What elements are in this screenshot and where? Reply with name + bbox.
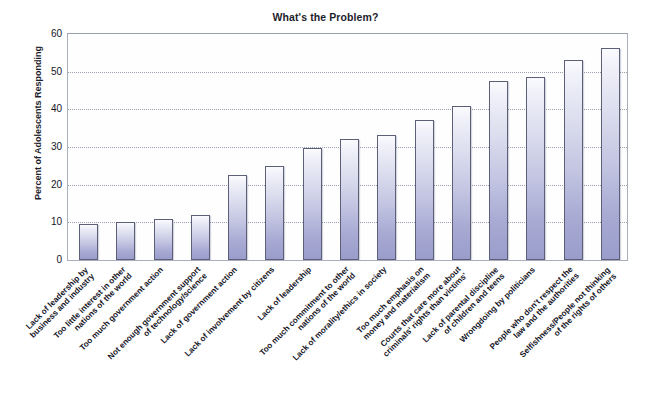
chart-figure: What's the Problem? Percent of Adolescen… xyxy=(0,0,651,401)
x-axis-tick-labels: Lack of leadership bybusiness and indust… xyxy=(0,0,651,401)
